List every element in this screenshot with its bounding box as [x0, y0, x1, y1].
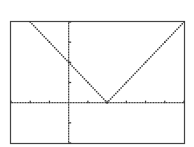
x-tick: [126, 101, 127, 104]
x-axis: [38, 102, 39, 103]
curve-point: [68, 62, 70, 64]
x-axis: [158, 102, 159, 103]
curve-point: [63, 56, 65, 58]
y-axis: [68, 134, 69, 135]
y-tick: [69, 122, 72, 123]
x-axis: [99, 102, 100, 103]
x-tick: [164, 101, 165, 104]
y-axis: [68, 117, 69, 118]
x-axis: [60, 102, 61, 103]
x-axis: [155, 102, 156, 103]
curve-point: [157, 49, 159, 51]
y-axis: [68, 120, 69, 121]
curve-point: [96, 91, 98, 93]
curve-point: [178, 27, 180, 29]
x-axis: [26, 102, 27, 103]
y-axis: [68, 67, 69, 68]
curve-point: [126, 82, 128, 84]
y-axis: [68, 26, 69, 27]
x-axis: [41, 102, 42, 103]
x-axis: [143, 102, 144, 103]
x-axis: [105, 102, 106, 103]
curve-point: [94, 89, 96, 91]
curve-point: [78, 73, 80, 75]
y-axis: [68, 139, 69, 140]
curve-point: [42, 34, 44, 36]
y-axis: [68, 79, 69, 80]
x-axis: [131, 102, 132, 103]
x-axis: [124, 102, 125, 103]
y-axis: [68, 38, 69, 39]
x-axis: [25, 102, 26, 103]
y-axis: [68, 34, 69, 35]
x-axis: [47, 102, 48, 103]
x-axis: [79, 102, 80, 103]
curve-point: [84, 78, 86, 80]
x-axis: [65, 102, 66, 103]
x-axis: [81, 102, 82, 103]
curve-point: [175, 30, 177, 32]
x-tick: [145, 101, 146, 104]
curve-point: [148, 58, 150, 60]
curve-point: [103, 98, 105, 100]
y-axis: [68, 128, 69, 129]
y-axis: [68, 50, 69, 51]
curve-point: [173, 32, 175, 34]
y-axis: [68, 91, 69, 92]
x-axis: [102, 102, 103, 103]
x-axis: [119, 102, 120, 103]
x-axis: [15, 102, 16, 103]
curve-point: [108, 100, 110, 102]
y-axis: [68, 110, 69, 111]
y-axis: [68, 33, 69, 34]
curve-point: [61, 54, 63, 56]
x-axis: [175, 102, 176, 103]
x-axis: [62, 102, 63, 103]
curve-point: [105, 100, 107, 102]
x-axis: [89, 102, 90, 103]
x-axis: [36, 102, 37, 103]
x-axis: [86, 102, 87, 103]
curve-point: [152, 54, 154, 56]
x-axis: [115, 102, 116, 103]
x-axis: [163, 102, 164, 103]
curve-point: [101, 96, 103, 98]
x-axis: [172, 102, 173, 103]
y-axis: [68, 97, 69, 98]
curve-point: [145, 62, 147, 64]
y-axis: [68, 73, 69, 74]
x-axis: [52, 102, 53, 103]
x-axis: [90, 102, 91, 103]
curve-point: [31, 23, 33, 25]
curve-point: [159, 47, 161, 49]
y-axis: [68, 75, 69, 76]
curve-point: [92, 87, 94, 89]
x-axis: [139, 102, 140, 103]
x-axis: [180, 102, 181, 103]
x-axis: [50, 102, 51, 103]
x-axis: [166, 102, 167, 103]
x-axis: [118, 102, 119, 103]
curve-point: [155, 51, 157, 53]
curve-point: [70, 63, 72, 65]
x-axis: [33, 102, 34, 103]
x-axis: [121, 102, 122, 103]
curve-point: [176, 29, 178, 31]
x-axis: [150, 102, 151, 103]
y-tick: [69, 82, 72, 83]
y-axis: [68, 109, 69, 110]
curve-point: [33, 25, 35, 27]
x-axis: [34, 102, 35, 103]
curve-point: [87, 82, 89, 84]
x-axis: [179, 102, 180, 103]
curve-point: [180, 25, 182, 27]
y-axis: [68, 112, 69, 113]
y-axis: [68, 88, 69, 89]
y-axis: [68, 52, 69, 53]
x-axis: [55, 102, 56, 103]
curve-point: [115, 93, 117, 95]
curve-point: [98, 93, 100, 95]
y-axis: [68, 47, 69, 48]
curve-point: [136, 71, 138, 73]
y-axis: [68, 31, 69, 32]
